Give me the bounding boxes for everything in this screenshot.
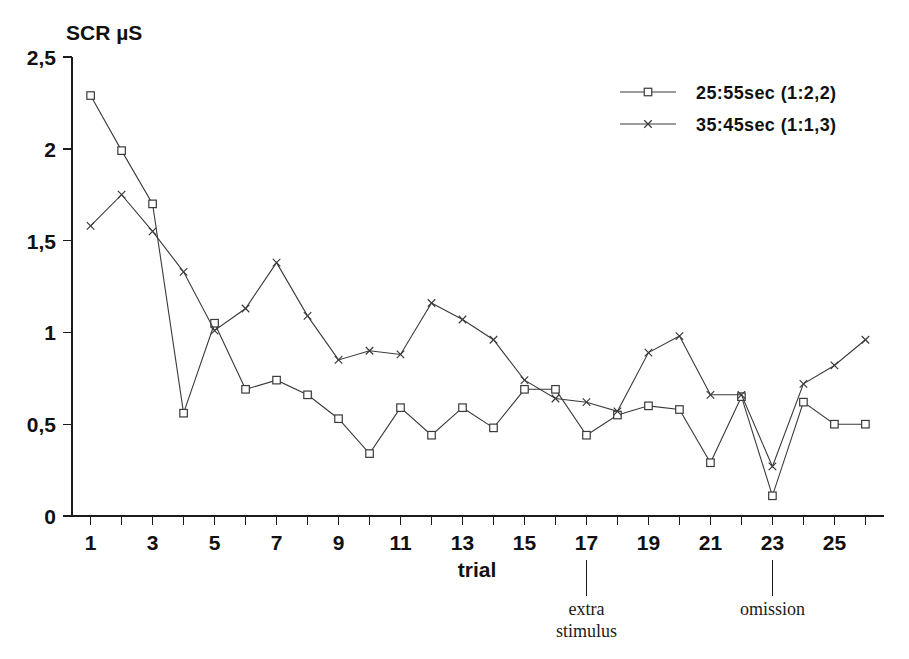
data-point-x bbox=[273, 259, 281, 267]
data-point-square bbox=[800, 398, 808, 406]
x-tick-label: 9 bbox=[333, 531, 345, 554]
annotation-2: omission bbox=[740, 560, 805, 619]
annotation-1: extrastimulus bbox=[556, 560, 617, 641]
data-point-x bbox=[800, 380, 808, 388]
y-axis-ticks bbox=[63, 57, 72, 516]
series-polyline bbox=[91, 96, 866, 496]
annotation-label: extra bbox=[568, 599, 604, 619]
data-series-layer bbox=[87, 92, 869, 500]
x-axis-tick-labels: 135791113151719212325 bbox=[85, 531, 847, 554]
data-point-x bbox=[242, 305, 250, 313]
data-point-x bbox=[149, 228, 157, 236]
x-tick-label: 21 bbox=[699, 531, 723, 554]
legend-marker-square bbox=[644, 88, 652, 96]
data-point-square bbox=[459, 404, 467, 412]
data-point-square bbox=[304, 391, 312, 399]
x-tick-label: 7 bbox=[271, 531, 283, 554]
data-point-square bbox=[149, 200, 157, 208]
x-tick-label: 23 bbox=[761, 531, 784, 554]
y-axis-title: SCR µS bbox=[66, 21, 142, 44]
data-point-x bbox=[428, 299, 436, 307]
data-point-square bbox=[552, 386, 560, 394]
y-tick-label: 1 bbox=[44, 321, 56, 344]
data-point-square bbox=[366, 450, 374, 458]
scr-line-chart: 00,511,522,5 135791113151719212325 extra… bbox=[0, 0, 909, 659]
y-tick-label: 2 bbox=[44, 138, 56, 161]
chart-canvas: 00,511,522,5 135791113151719212325 extra… bbox=[0, 0, 909, 659]
y-axis-tick-labels: 00,511,522,5 bbox=[27, 46, 57, 528]
y-tick-label: 2,5 bbox=[27, 46, 57, 69]
x-tick-label: 3 bbox=[147, 531, 159, 554]
data-point-x bbox=[118, 191, 126, 199]
data-point-square bbox=[614, 411, 622, 419]
data-point-square bbox=[242, 386, 250, 394]
data-point-square bbox=[645, 402, 653, 410]
x-tick-label: 11 bbox=[389, 531, 412, 554]
data-point-x bbox=[304, 312, 312, 320]
y-tick-label: 0 bbox=[44, 505, 56, 528]
data-point-square bbox=[428, 431, 436, 439]
data-point-x bbox=[769, 463, 777, 471]
data-point-x bbox=[645, 349, 653, 357]
data-point-x bbox=[490, 336, 498, 344]
x-tick-label: 5 bbox=[209, 531, 221, 554]
x-axis-title: trial bbox=[458, 558, 497, 581]
data-point-x bbox=[862, 336, 870, 344]
data-point-square bbox=[118, 147, 126, 155]
annotations-layer: extrastimulusomission bbox=[556, 560, 805, 641]
x-tick-label: 19 bbox=[637, 531, 660, 554]
data-point-square bbox=[335, 415, 343, 423]
legend-item-1: 25:55sec (1:2,2) bbox=[620, 83, 837, 103]
data-point-square bbox=[862, 420, 870, 428]
data-point-x bbox=[521, 376, 529, 384]
legend-item-2: 35:45sec (1:1,3) bbox=[620, 115, 837, 135]
data-point-square bbox=[87, 92, 95, 100]
x-tick-label: 25 bbox=[823, 531, 847, 554]
annotation-label: omission bbox=[740, 599, 805, 619]
data-point-square bbox=[583, 431, 591, 439]
y-tick-label: 0,5 bbox=[27, 413, 57, 436]
data-point-square bbox=[769, 492, 777, 500]
x-tick-label: 15 bbox=[513, 531, 537, 554]
data-point-square bbox=[273, 376, 281, 384]
data-point-square bbox=[676, 406, 684, 414]
data-point-square bbox=[180, 409, 188, 417]
data-point-x bbox=[459, 316, 467, 324]
data-point-x bbox=[676, 332, 684, 340]
y-tick-label: 1,5 bbox=[27, 230, 57, 253]
x-tick-label: 13 bbox=[451, 531, 474, 554]
data-point-square bbox=[490, 424, 498, 432]
data-point-square bbox=[831, 420, 839, 428]
chart-legend: 25:55sec (1:2,2)35:45sec (1:1,3) bbox=[620, 83, 837, 135]
x-tick-label: 17 bbox=[575, 531, 598, 554]
x-tick-label: 1 bbox=[85, 531, 97, 554]
data-point-x bbox=[87, 222, 95, 230]
data-point-x bbox=[335, 356, 343, 364]
data-point-square bbox=[521, 386, 529, 394]
data-point-square bbox=[707, 459, 715, 467]
data-point-square bbox=[397, 404, 405, 412]
legend-label: 25:55sec (1:2,2) bbox=[696, 83, 837, 103]
series-1 bbox=[87, 92, 869, 500]
annotation-label-line2: stimulus bbox=[556, 621, 617, 641]
data-point-x bbox=[180, 268, 188, 276]
legend-label: 35:45sec (1:1,3) bbox=[696, 115, 837, 135]
series-polyline bbox=[91, 195, 866, 467]
data-point-x bbox=[831, 362, 839, 370]
x-axis-ticks bbox=[91, 516, 866, 525]
